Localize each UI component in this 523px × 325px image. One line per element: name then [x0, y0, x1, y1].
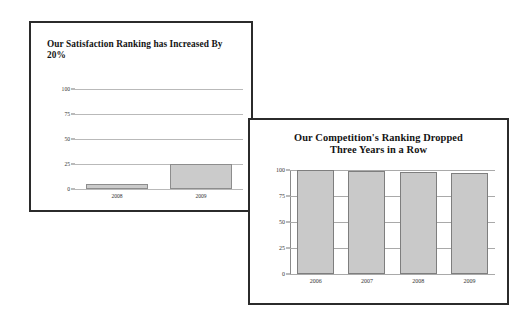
xlabel-2006: 2006	[290, 274, 341, 288]
bar-2008[interactable]	[400, 172, 437, 274]
ytick-label-100: 100	[62, 86, 70, 92]
satisfaction-ranking-panel: Our Satisfaction Ranking has Increased B…	[29, 21, 253, 212]
bar-slot-2009	[444, 170, 495, 274]
xlabel-2009: 2009	[444, 274, 495, 288]
ytick-label-75: 75	[64, 111, 70, 117]
bar-2007[interactable]	[348, 171, 385, 274]
chart-2-title: Our Competition's Ranking Dropped Three …	[268, 132, 489, 157]
ytick-label-25: 25	[279, 245, 285, 251]
ytick-label-50: 50	[64, 136, 70, 142]
bar-slot-2006	[290, 170, 341, 274]
bar-slot-2008	[75, 89, 159, 189]
xlabel-2009: 2009	[159, 189, 243, 203]
bar-2009[interactable]	[170, 164, 232, 189]
chart-1-bars	[75, 89, 243, 189]
bar-2006[interactable]	[297, 170, 334, 274]
ytick-label-25: 25	[64, 161, 70, 167]
bar-slot-2008	[393, 170, 444, 274]
xlabel-2008: 2008	[393, 274, 444, 288]
chart-2-bars	[290, 170, 495, 274]
ytick-label-0: 0	[67, 186, 70, 192]
chart-1-x-axis-labels: 2008 2009	[75, 189, 243, 203]
ytick-label-75: 75	[279, 193, 285, 199]
ytick-label-100: 100	[276, 167, 285, 173]
ytick-label-50: 50	[279, 219, 285, 225]
chart-1-title: Our Satisfaction Ranking has Increased B…	[41, 39, 241, 61]
chart-2-plot-area: 100 75 50 25 0	[290, 170, 495, 288]
chart-2-title-line-2: Three Years in a Row	[268, 144, 489, 156]
competition-ranking-panel: Our Competition's Ranking Dropped Three …	[248, 118, 509, 305]
ytick-label-0: 0	[282, 271, 285, 277]
bar-slot-2007	[341, 170, 392, 274]
bar-2009[interactable]	[451, 173, 488, 274]
bar-slot-2009	[159, 89, 243, 189]
xlabel-2007: 2007	[341, 274, 392, 288]
chart-2-x-axis-labels: 2006 2007 2008 2009	[290, 274, 495, 288]
chart-2-title-line-1: Our Competition's Ranking Dropped	[268, 132, 489, 144]
chart-1-plot-area: 100 75 50 25 0	[75, 89, 243, 203]
xlabel-2008: 2008	[75, 189, 159, 203]
